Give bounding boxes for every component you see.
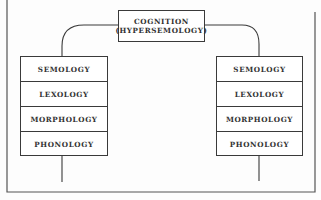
left-stratum-morphology: MORPHOLOGY xyxy=(21,107,107,132)
left-connector xyxy=(62,25,118,56)
right-stratum-morphology: MORPHOLOGY xyxy=(217,107,302,132)
stratum-label: SEMOLOGY xyxy=(233,65,285,74)
cognition-node: COGNITION (HYPERSEMOLOGY) xyxy=(118,10,205,42)
stratification-diagram: COGNITION (HYPERSEMOLOGY) SEMOLOGY LEXOL… xyxy=(0,0,321,200)
left-stratum-semology: SEMOLOGY xyxy=(21,57,107,82)
left-strata-stack: SEMOLOGY LEXOLOGY MORPHOLOGY PHONOLOGY xyxy=(20,56,108,156)
stratum-label: MORPHOLOGY xyxy=(226,115,293,124)
right-stratum-phonology: PHONOLOGY xyxy=(217,132,302,157)
right-stratum-lexology: LEXOLOGY xyxy=(217,82,302,107)
left-stratum-lexology: LEXOLOGY xyxy=(21,82,107,107)
stratum-label: PHONOLOGY xyxy=(34,140,93,149)
right-stratum-semology: SEMOLOGY xyxy=(217,57,302,82)
left-stratum-phonology: PHONOLOGY xyxy=(21,132,107,157)
stratum-label: LEXOLOGY xyxy=(39,90,89,99)
right-strata-stack: SEMOLOGY LEXOLOGY MORPHOLOGY PHONOLOGY xyxy=(216,56,303,156)
hypersemology-label: (HYPERSEMOLOGY) xyxy=(115,26,207,35)
stratum-label: PHONOLOGY xyxy=(230,140,289,149)
stratum-label: MORPHOLOGY xyxy=(30,115,97,124)
stratum-label: SEMOLOGY xyxy=(38,65,90,74)
cognition-label: COGNITION xyxy=(134,17,189,26)
stratum-label: LEXOLOGY xyxy=(235,90,285,99)
right-connector xyxy=(205,25,259,56)
